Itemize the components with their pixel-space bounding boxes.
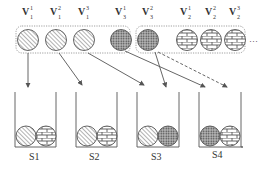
svg-text:V: V xyxy=(142,6,150,17)
vm-label: V32 xyxy=(229,5,240,20)
bins xyxy=(15,92,243,147)
svg-text:V: V xyxy=(229,6,237,17)
vm-label: V11 xyxy=(22,5,33,20)
bin-s1 xyxy=(15,92,56,147)
svg-text:3: 3 xyxy=(86,5,89,11)
svg-text:2: 2 xyxy=(213,14,216,20)
bin-label-s3: S3 xyxy=(151,151,162,162)
bin-s2 xyxy=(76,92,117,147)
svg-text:3: 3 xyxy=(123,14,126,20)
svg-text:2: 2 xyxy=(150,5,153,11)
svg-text:2: 2 xyxy=(237,14,240,20)
vm-label: V21 xyxy=(50,5,61,20)
svg-text:1: 1 xyxy=(86,14,89,20)
arrow-v12-to-s2 xyxy=(59,53,82,85)
svg-text:V: V xyxy=(180,6,188,17)
svg-text:V: V xyxy=(115,6,123,17)
bin-label-s4: S4 xyxy=(212,149,223,160)
vm-placement-diagram: V11 V21 V31 V13 V23 V12 V22 V32 ··· xyxy=(0,0,272,171)
vm-circle-dotted xyxy=(138,30,159,51)
svg-text:2: 2 xyxy=(213,5,216,11)
vm-label: V23 xyxy=(142,5,153,20)
svg-text:1: 1 xyxy=(123,5,126,11)
vm-circle-hatched xyxy=(74,30,95,51)
arrow-v31-to-s4 xyxy=(125,51,205,87)
svg-text:V: V xyxy=(205,6,213,17)
vm-circle-hatched xyxy=(18,30,39,51)
vm-circle-brick xyxy=(225,30,246,51)
svg-text:3: 3 xyxy=(237,5,240,11)
svg-text:1: 1 xyxy=(188,5,191,11)
bin-s4 xyxy=(199,92,243,147)
vm-circle-dotted xyxy=(111,30,132,51)
svg-text:3: 3 xyxy=(150,14,153,20)
vm-labels: V11 V21 V31 V13 V23 V12 V22 V32 xyxy=(22,5,240,20)
svg-text:1: 1 xyxy=(30,5,33,11)
vm-circle-brick xyxy=(201,30,222,51)
svg-text:1: 1 xyxy=(58,14,61,20)
ellipsis: ··· xyxy=(249,36,258,46)
arrow-v13-to-s3 xyxy=(88,53,144,85)
svg-text:2: 2 xyxy=(58,5,61,11)
vm-label: V12 xyxy=(180,5,191,20)
vm-label: V22 xyxy=(205,5,216,20)
arrow-v32-to-s3 xyxy=(155,52,166,87)
placement-arrows xyxy=(28,51,227,87)
vm-circle-hatched xyxy=(46,30,67,51)
svg-text:2: 2 xyxy=(188,14,191,20)
vm-circle-brick xyxy=(177,30,198,51)
svg-text:1: 1 xyxy=(30,14,33,20)
vm-label: V13 xyxy=(115,5,126,20)
svg-text:V: V xyxy=(50,6,58,17)
vm-label: V31 xyxy=(78,5,89,20)
bin-s3 xyxy=(137,92,179,147)
svg-text:V: V xyxy=(78,6,86,17)
bin-label-s2: S2 xyxy=(89,151,100,162)
bin-label-s1: S1 xyxy=(29,151,40,162)
vm-circles xyxy=(18,30,246,51)
svg-text:V: V xyxy=(22,6,30,17)
